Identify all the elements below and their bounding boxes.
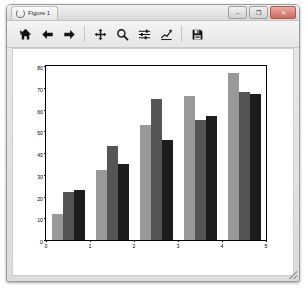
bar-group xyxy=(228,66,261,240)
zoom-button[interactable] xyxy=(112,23,132,45)
window-title: Figure 1 xyxy=(28,10,50,16)
y-tick-mark xyxy=(44,175,46,176)
figure-window: Figure 1 – ❐ ✕ xyxy=(6,4,300,282)
y-tick-mark xyxy=(44,88,46,89)
bar xyxy=(184,96,195,240)
minimize-button[interactable]: – xyxy=(228,6,247,19)
arrow-left-icon xyxy=(41,28,54,41)
y-tick-mark xyxy=(44,66,46,67)
plot-area: 01020304050607080 012345 xyxy=(13,49,293,275)
toolbar-separator-1 xyxy=(84,26,85,42)
x-tick-mark xyxy=(178,240,179,242)
bar xyxy=(151,99,162,240)
edit-axis-button[interactable] xyxy=(156,23,176,45)
bar xyxy=(239,92,250,240)
configure-subplots-button[interactable] xyxy=(134,23,154,45)
window-controls: – ❐ ✕ xyxy=(228,6,296,19)
axes: 01020304050607080 012345 xyxy=(45,65,267,241)
bar xyxy=(206,116,217,240)
bar xyxy=(96,170,107,240)
bar xyxy=(140,125,151,240)
bar xyxy=(162,140,173,240)
window-title-tab: Figure 1 xyxy=(11,6,58,20)
home-button[interactable] xyxy=(15,23,35,45)
bar-group xyxy=(52,66,85,240)
figure-canvas[interactable]: 01020304050607080 012345 xyxy=(12,48,294,276)
maximize-button[interactable]: ❐ xyxy=(249,6,268,19)
bar xyxy=(228,73,239,240)
y-tick-mark xyxy=(44,153,46,154)
bar-series-layer xyxy=(46,66,266,240)
bar xyxy=(52,214,63,240)
x-tick-mark xyxy=(90,240,91,242)
save-button[interactable] xyxy=(187,23,207,45)
y-tick-mark xyxy=(44,197,46,198)
resize-grip[interactable] xyxy=(289,271,297,279)
bar xyxy=(63,192,74,240)
bar xyxy=(250,94,261,240)
sliders-icon xyxy=(138,28,151,41)
y-tick-mark xyxy=(44,131,46,132)
bar-group xyxy=(140,66,173,240)
x-tick-mark xyxy=(222,240,223,242)
y-tick-mark xyxy=(44,218,46,219)
pan-button[interactable] xyxy=(90,23,110,45)
arrow-right-icon xyxy=(63,28,76,41)
bar-group xyxy=(184,66,217,240)
status-bar xyxy=(7,274,299,281)
figure-icon xyxy=(16,9,25,18)
floppy-disk-icon xyxy=(191,28,204,41)
bar xyxy=(118,164,129,240)
close-button[interactable]: ✕ xyxy=(270,6,296,19)
x-tick-mark xyxy=(134,240,135,242)
forward-button[interactable] xyxy=(59,23,79,45)
back-button[interactable] xyxy=(37,23,57,45)
bar xyxy=(195,120,206,240)
x-tick-mark xyxy=(46,240,47,242)
bar xyxy=(74,190,85,240)
navigation-toolbar xyxy=(7,21,299,48)
bar xyxy=(107,146,118,240)
title-bar: Figure 1 – ❐ ✕ xyxy=(7,5,299,21)
magnifier-icon xyxy=(116,28,129,41)
line-chart-icon xyxy=(160,28,173,41)
y-tick-mark xyxy=(44,110,46,111)
toolbar-separator-2 xyxy=(181,26,182,42)
home-icon xyxy=(19,28,32,41)
move-cross-icon xyxy=(94,28,107,41)
x-tick-mark xyxy=(266,240,267,242)
bar-group xyxy=(96,66,129,240)
